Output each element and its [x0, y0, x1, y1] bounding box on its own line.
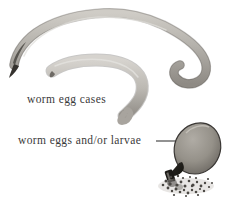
upper-worm-egg-case	[9, 13, 206, 84]
lower-worm-egg-case	[50, 59, 143, 122]
illustration-figure: worm egg cases worm eggs and/or larvae	[0, 0, 229, 207]
label-worm-eggs-and-or-larvae: worm eggs and/or larvae	[18, 134, 141, 146]
label-worm-egg-cases: worm egg cases	[27, 93, 106, 105]
egg-pile	[158, 175, 214, 197]
egg-sac	[164, 123, 220, 183]
